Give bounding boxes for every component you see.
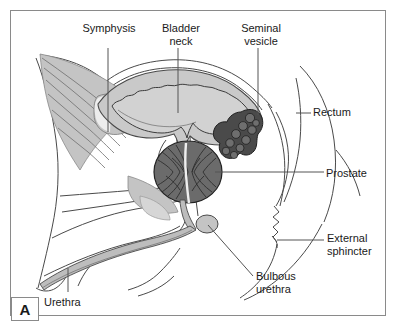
prostate-group [154,141,222,203]
label-bladder-neck: Bladder neck [148,22,214,48]
anatomy-figure: SymphysisBladder neckSeminal vesicleRect… [0,0,396,326]
bulbous-urethra-group [196,215,218,233]
label-bulbous-urethra: Bulbous urethra [256,270,326,296]
perineum-line [128,248,180,290]
label-external-sphincter: External sphincter [327,232,395,258]
label-rectum: Rectum [313,106,383,119]
label-seminal-vesicle: Seminal vesicle [228,22,294,48]
rectum-anterior-line [268,104,285,206]
panel-label-box: A [11,297,39,321]
label-prostate: Prostate [326,167,396,180]
bulb-shape [196,215,218,233]
sacrum-line [300,66,336,222]
label-urethra: Urethra [44,296,104,309]
bulbous-urethra-leader [208,225,253,276]
perineum-line-2 [138,276,174,296]
panel-label-text: A [20,302,31,317]
urethra-group [40,200,196,290]
anal-canal-line [273,206,279,242]
label-symphysis: Symphysis [74,22,144,35]
anatomy-diagram [0,0,396,326]
